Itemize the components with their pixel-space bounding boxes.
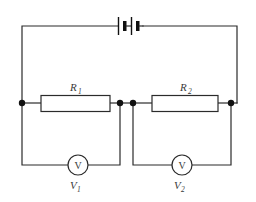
wire-v2-right bbox=[192, 103, 231, 165]
resistor-r1-body bbox=[41, 96, 110, 112]
battery-symbol bbox=[119, 17, 144, 35]
node-left bbox=[19, 100, 25, 106]
voltmeter-v1-label: V 1 bbox=[70, 179, 81, 194]
resistor-r1-label-subscript: 1 bbox=[78, 87, 82, 96]
voltmeter-v1-label-subscript: 1 bbox=[77, 185, 81, 194]
resistor-r1-label: R 1 bbox=[69, 81, 82, 96]
wire-v1-right bbox=[88, 103, 120, 165]
resistor-r2-label-main: R bbox=[179, 81, 187, 93]
wire-v2-left bbox=[133, 103, 172, 165]
circuit-diagram: R 1 R 2 V V 1 V V 2 bbox=[0, 0, 256, 202]
resistor-r2-label-subscript: 2 bbox=[188, 87, 192, 96]
outer-loop-wires bbox=[22, 26, 237, 103]
voltmeter-v2-glyph: V bbox=[178, 160, 186, 171]
node-middle-right bbox=[130, 100, 136, 106]
node-right bbox=[228, 100, 234, 106]
node-middle-left bbox=[117, 100, 123, 106]
resistor-r1-label-main: R bbox=[69, 81, 77, 93]
voltmeter-v1-loop-wires bbox=[22, 103, 120, 165]
voltmeter-v1-glyph: V bbox=[74, 160, 82, 171]
resistor-r2-label: R 2 bbox=[179, 81, 192, 96]
voltmeter-v2-label-subscript: 2 bbox=[181, 185, 185, 194]
resistor-r2-body bbox=[152, 96, 218, 112]
circuit-canvas: R 1 R 2 V V 1 V V 2 bbox=[0, 0, 256, 202]
voltmeter-v2-label: V 2 bbox=[174, 179, 185, 194]
wire-v1-left bbox=[22, 103, 68, 165]
